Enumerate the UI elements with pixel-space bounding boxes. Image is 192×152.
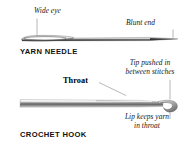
callout-lip-keeps-line2: in throat xyxy=(134,121,160,130)
diagram-figure: Wide eye Blunt end YARN NEEDLE Throat Ti… xyxy=(0,0,192,152)
callout-wide-eye: Wide eye xyxy=(34,6,61,15)
callout-tip-pushed-line2: between stitches xyxy=(125,67,174,76)
callout-throat: Throat xyxy=(63,76,88,85)
callout-tip-pushed-line1: Tip pushed in xyxy=(130,58,170,67)
callout-blunt-end: Blunt end xyxy=(126,18,155,27)
leader-line-throat xyxy=(99,83,126,96)
callout-lip-keeps-line1: Lip keeps yarn xyxy=(125,112,169,121)
callout-lip-keeps-yarn-in-throat: Lip keeps yarn in throat xyxy=(113,112,181,130)
crochet-hook-illustration xyxy=(20,100,177,112)
part-label-crochet-hook: CROCHET HOOK xyxy=(20,130,87,139)
part-label-yarn-needle: YARN NEEDLE xyxy=(20,47,78,56)
callout-tip-pushed-in-between-stitches: Tip pushed in between stitches xyxy=(117,58,183,76)
yarn-needle-illustration xyxy=(22,35,179,41)
